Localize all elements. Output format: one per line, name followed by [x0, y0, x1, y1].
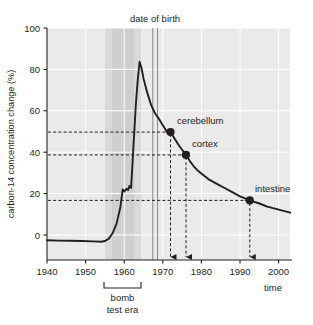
carbon14-chart-figure: 100 80 60 40 20 0 1940 1950 1960 1970 19…: [0, 0, 313, 325]
label-cerebellum: cerebellum: [177, 115, 224, 126]
x-tick-label-1950: 1950: [75, 266, 96, 277]
label-intestine: intestine: [255, 183, 290, 194]
x-tick-label-1960: 1960: [114, 266, 135, 277]
y-tick-label-40: 40: [29, 147, 40, 158]
x-axis-title: time: [264, 282, 282, 293]
x-tick-label-1970: 1970: [152, 266, 173, 277]
label-cortex: cortex: [192, 138, 218, 149]
y-tick-label-20: 20: [29, 188, 40, 199]
y-tick-label-60: 60: [29, 105, 40, 116]
y-axis-title: carbon-14 concentration change (%): [6, 70, 16, 219]
bomb-test-era-label-line2: test era: [107, 304, 139, 315]
plot-area-background: [47, 28, 290, 260]
bomb-test-era-label-line1: bomb: [111, 292, 135, 303]
x-tick-label-2000: 2000: [268, 266, 289, 277]
x-tick-label-1940: 1940: [36, 266, 57, 277]
bomb-test-era-band: [105, 28, 141, 260]
data-point-intestine: [246, 196, 254, 204]
date-of-birth-label: date of birth: [130, 13, 180, 24]
y-tick-label-100: 100: [24, 23, 40, 34]
y-tick-label-80: 80: [29, 64, 40, 75]
x-tick-label-1980: 1980: [191, 266, 212, 277]
data-point-cerebellum: [166, 128, 174, 136]
data-point-cortex: [182, 151, 190, 159]
y-tick-label-0: 0: [35, 230, 40, 241]
chart-svg: 100 80 60 40 20 0 1940 1950 1960 1970 19…: [0, 0, 313, 325]
x-tick-label-1990: 1990: [229, 266, 250, 277]
